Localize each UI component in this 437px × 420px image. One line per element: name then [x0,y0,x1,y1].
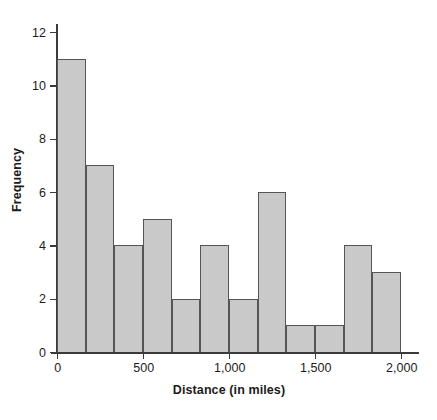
y-axis-tick: 2 [50,299,57,300]
histogram-bar [286,325,315,352]
y-axis-tick: 6 [50,192,57,193]
y-axis-tick: 12 [50,32,57,33]
x-axis-tick-label: 1,500 [300,361,331,375]
histogram-bar [372,272,401,352]
histogram-bar [258,192,287,352]
y-axis-tick-label: 2 [39,292,46,306]
x-axis-tick: 2,000 [401,352,402,359]
histogram-bar [200,245,229,352]
y-axis-title-label: Frequency [10,148,24,212]
x-axis-tick-label: 1,000 [214,361,245,375]
y-axis-tick-label: 6 [39,186,46,200]
y-axis-tick: 8 [50,139,57,140]
x-axis-tick: 500 [143,352,144,359]
y-axis-title: Frequency [0,0,34,360]
y-axis-tick-label: 0 [39,346,46,360]
x-axis-tick: 1,000 [229,352,230,359]
y-axis-tick-label: 4 [39,239,46,253]
histogram-bar [172,299,201,352]
histogram-bar [315,325,344,352]
y-axis-tick: 10 [50,85,57,86]
x-axis-tick-label: 500 [133,361,154,375]
histogram-bar [114,245,143,352]
x-axis-line [51,352,419,354]
histogram-bar [344,245,373,352]
histogram-bar [57,59,86,352]
x-axis-tick: 0 [57,352,58,359]
y-axis-tick-label: 8 [39,132,46,146]
y-axis-tick-label: 12 [32,26,46,40]
x-axis-title: Distance (in miles) [57,383,401,397]
y-axis-tick: 4 [50,245,57,246]
y-axis-tick: 0 [50,352,57,353]
histogram-chart: Frequency 024681012 05001,0001,5002,000 … [0,0,437,420]
plot-area: 024681012 05001,0001,5002,000 [57,32,401,352]
histogram-bar [86,165,115,352]
y-axis-tick-label: 10 [32,79,46,93]
x-axis-tick-label: 0 [54,361,61,375]
x-axis-tick-label: 2,000 [386,361,417,375]
histogram-bar [143,219,172,352]
histogram-bar [229,299,258,352]
x-axis-tick: 1,500 [315,352,316,359]
